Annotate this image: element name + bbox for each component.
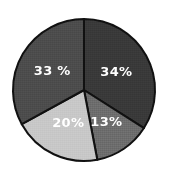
pie-slice-label-0: 34% [100, 64, 132, 79]
pie-chart-svg: 34% 13% 20% 33 % [0, 0, 169, 175]
pie-slices-group [13, 19, 155, 161]
pie-slice-label-1: 13% [90, 114, 122, 129]
pie-slice-label-3: 33 % [34, 63, 71, 78]
pie-slice-label-2: 20% [52, 115, 84, 130]
pie-chart-figure: 34% 13% 20% 33 % [0, 0, 169, 175]
